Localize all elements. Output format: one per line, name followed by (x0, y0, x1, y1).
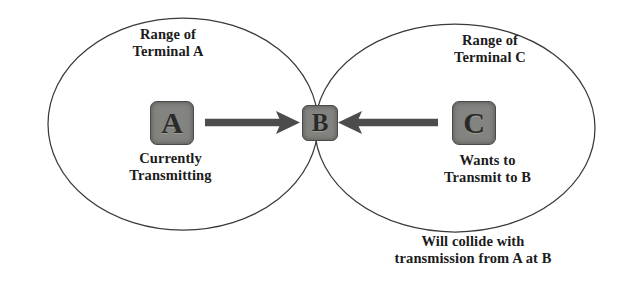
terminal-node-b[interactable]: B (302, 105, 338, 141)
arrow-a-to-b (205, 111, 300, 134)
status-label-a: Currently Transmitting (78, 150, 263, 184)
arrow-c-to-b (338, 111, 438, 134)
status-label-c: Wants to Transmit to B (395, 152, 580, 186)
range-label-c: Range of Terminal C (400, 32, 580, 66)
range-label-a: Range of Terminal A (78, 26, 258, 60)
hidden-terminal-diagram: Range of Terminal A Range of Terminal C … (0, 0, 620, 284)
terminal-node-a[interactable]: A (150, 101, 194, 145)
terminal-node-c[interactable]: C (452, 101, 496, 145)
collision-caption: Will collide with transmission from A at… (338, 233, 608, 267)
